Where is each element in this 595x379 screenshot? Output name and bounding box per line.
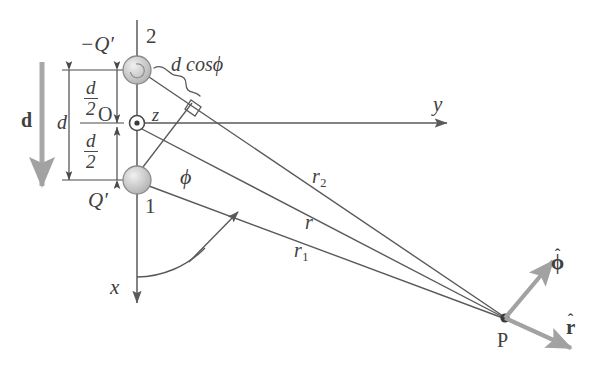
axis-label-z: z bbox=[152, 106, 159, 124]
charge-sphere-top bbox=[123, 56, 151, 84]
phi-hat-caret: ˆ bbox=[555, 247, 561, 264]
d-half-lower-numerator: d bbox=[84, 131, 98, 150]
ray-r-origin-to-P bbox=[140, 128, 503, 317]
label-bottom-charge-index: 1 bbox=[145, 196, 156, 217]
label-dimension-d-half-upper: d 2 bbox=[84, 78, 98, 118]
angle-arc-phi bbox=[137, 212, 238, 277]
label-origin-O: O bbox=[98, 104, 112, 124]
label-point-P: P bbox=[497, 330, 508, 350]
axis-label-x: x bbox=[110, 277, 119, 298]
label-dimension-d-half-lower: d 2 bbox=[84, 131, 98, 171]
axis-label-y: y bbox=[433, 94, 442, 115]
r1-subscript: 1 bbox=[302, 250, 309, 264]
d-half-upper-denominator: 2 bbox=[84, 98, 98, 118]
r2-base: r bbox=[312, 165, 320, 187]
label-d-cos-phi-text: d cosϕ bbox=[171, 53, 223, 75]
unit-vector-r-hat-arrow bbox=[505, 318, 571, 348]
r2-subscript: 2 bbox=[320, 176, 327, 190]
figure-canvas: −Q′ 2 d cosϕ y O z d d d 2 d 2 Q′ 1 ϕ r2… bbox=[0, 0, 595, 379]
label-angle-phi: ϕ bbox=[180, 166, 191, 188]
d-half-lower-denominator: 2 bbox=[84, 151, 98, 171]
label-unit-vector-r-hat: ˆ r bbox=[566, 317, 575, 338]
label-dipole-vector-d: d bbox=[21, 110, 32, 130]
label-unit-vector-phi-hat: ˆ ϕ bbox=[551, 252, 564, 273]
label-d-cos-phi: d cosϕ bbox=[171, 54, 223, 74]
label-top-charge-index: 2 bbox=[146, 26, 157, 47]
unit-vector-phi-hat-arrow bbox=[505, 261, 553, 318]
ray-r2-top-charge-to-P bbox=[149, 77, 503, 316]
label-distance-r1: r1 bbox=[294, 240, 309, 263]
r1-base: r bbox=[294, 239, 302, 261]
label-top-charge: −Q′ bbox=[80, 34, 114, 55]
connector-bottom-charge-to-projection-foot bbox=[143, 103, 192, 167]
ray-r1-bottom-charge-to-P bbox=[149, 186, 503, 318]
origin-z-out-of-page-symbol bbox=[130, 116, 145, 131]
label-distance-r: r bbox=[305, 212, 313, 232]
charge-sphere-bottom bbox=[123, 166, 151, 194]
label-bottom-charge: Q′ bbox=[88, 190, 108, 211]
label-dimension-d: d bbox=[57, 112, 67, 132]
r-hat-caret: ˆ bbox=[568, 312, 574, 329]
label-distance-r2: r2 bbox=[312, 166, 327, 189]
d-half-upper-numerator: d bbox=[84, 78, 98, 97]
